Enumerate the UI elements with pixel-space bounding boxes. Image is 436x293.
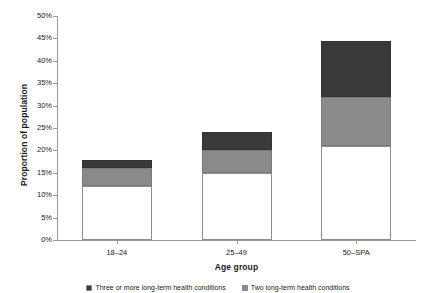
x-axis-tick-label: 25–49 <box>197 248 277 257</box>
bar-segment <box>82 160 152 168</box>
y-axis-tick-label: 0% <box>41 236 52 244</box>
legend-item: Two long-term health conditions <box>242 284 350 291</box>
y-axis-tick-mark <box>53 83 57 84</box>
y-axis-tick-label: 5% <box>41 214 52 222</box>
y-axis-tick-mark <box>53 16 57 17</box>
bar-segment <box>82 186 152 240</box>
legend-swatch-icon <box>242 285 248 291</box>
y-axis-tick-label: 45% <box>37 34 52 42</box>
y-axis-tick-label: 10% <box>37 191 52 199</box>
bar-group <box>321 16 391 240</box>
y-axis-tick-mark <box>53 150 57 151</box>
plot-area: 18–2425–4950–SPA <box>57 16 416 240</box>
legend-label: Two long-term health conditions <box>251 284 350 291</box>
y-axis-tick-label: 20% <box>37 146 52 154</box>
y-axis-tick-label: 50% <box>37 12 52 20</box>
x-axis-tick-mark <box>356 240 357 244</box>
y-axis-tick-label: 35% <box>37 79 52 87</box>
bar-segment <box>321 146 391 240</box>
bar-segment <box>202 150 272 172</box>
bar-segment <box>321 97 391 146</box>
y-axis-tick-label: 15% <box>37 169 52 177</box>
y-axis-tick-mark <box>53 106 57 107</box>
bar-group <box>202 16 272 240</box>
y-axis-tick-mark <box>53 240 57 241</box>
y-axis-tick-mark <box>53 128 57 129</box>
y-axis-tick-mark <box>53 38 57 39</box>
y-axis-tick-mark <box>53 173 57 174</box>
bar-segment <box>202 173 272 240</box>
x-axis-tick-mark <box>117 240 118 244</box>
y-axis-tick-label: 40% <box>37 57 52 65</box>
x-axis-title: Age group <box>57 262 416 272</box>
y-axis-tick-label: 30% <box>37 102 52 110</box>
bar-segment <box>321 41 391 97</box>
y-axis-tick-mark <box>53 61 57 62</box>
legend-swatch-icon <box>86 285 92 291</box>
bar-group <box>82 16 152 240</box>
bar-segment <box>202 132 272 150</box>
y-axis-tick-mark <box>53 195 57 196</box>
y-axis-tick-labels: 0%5%10%15%20%25%30%35%40%45%50% <box>22 16 52 240</box>
y-axis-tick-mark <box>53 218 57 219</box>
chart-legend: Three or more long-term health condition… <box>0 284 436 291</box>
legend-item: Three or more long-term health condition… <box>86 284 225 291</box>
x-axis-tick-mark <box>237 240 238 244</box>
x-axis-tick-label: 50–SPA <box>316 248 396 257</box>
x-axis-tick-label: 18–24 <box>77 248 157 257</box>
bar-segment <box>82 168 152 186</box>
y-axis-line <box>57 16 58 240</box>
y-axis-tick-label: 25% <box>37 124 52 132</box>
legend-label: Three or more long-term health condition… <box>95 284 225 291</box>
chart-figure: Proportion of population 0%5%10%15%20%25… <box>0 0 436 293</box>
